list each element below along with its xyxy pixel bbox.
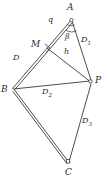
edge-label-D3: D3 xyxy=(82,117,92,127)
edge-label-D1: D1 xyxy=(81,36,91,46)
edge-A-B-outer xyxy=(13,21,71,89)
edge-label-D3-subscript: 3 xyxy=(88,121,92,127)
vertex-marker-P xyxy=(89,80,92,83)
vertex-label-P: P xyxy=(95,76,101,85)
angle-label-beta: β xyxy=(65,33,70,41)
figure-canvas xyxy=(0,0,108,183)
segment-label-h: h xyxy=(64,48,69,56)
edge-label-D2: D2 xyxy=(42,88,52,98)
vertex-label-M: M xyxy=(31,40,40,49)
edge-A-B-inner xyxy=(15,23,73,91)
vertex-label-C: C xyxy=(65,168,72,177)
angle-arc-apex xyxy=(68,25,74,26)
edge-label-D2-subscript: 2 xyxy=(48,92,52,98)
vertex-label-A: A xyxy=(67,3,74,12)
edge-label-q: q xyxy=(48,16,53,24)
edge-B-C-outer xyxy=(13,92,67,164)
edge-B-C-inner xyxy=(15,91,69,163)
vertex-marker-A xyxy=(70,19,73,22)
edge-label-D: D xyxy=(13,54,19,62)
edge-A-P xyxy=(72,21,91,80)
vertex-marker-C xyxy=(66,160,69,163)
edge-label-D1-subscript: 1 xyxy=(87,40,91,46)
geometry-figure: A B C P M q D D1 D2 D3 h β xyxy=(0,0,108,183)
vertex-label-B: B xyxy=(1,85,8,94)
